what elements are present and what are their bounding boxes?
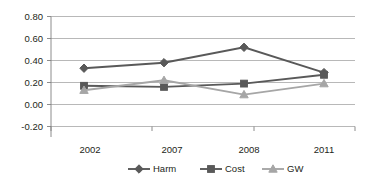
data-point-cost-2007	[161, 84, 168, 91]
legend-label-harm: Harm	[153, 163, 176, 174]
legend-item-cost[interactable]: Cost	[200, 163, 245, 174]
y-axis-labels: 0.80 0.60 0.40 0.20 0.00 -0.20	[21, 11, 43, 132]
y-axis-label-0: 0.80	[25, 11, 44, 22]
gridlines	[51, 17, 355, 127]
data-point-harm-2002	[80, 64, 88, 72]
y-axis-label-3: 0.20	[25, 77, 44, 88]
legend-label-cost: Cost	[225, 163, 245, 174]
legend-marker-cost	[208, 166, 215, 173]
legend-item-gw[interactable]: GW	[262, 163, 303, 174]
x-axis-label-2008: 2008	[238, 144, 259, 155]
data-point-harm-2007	[160, 59, 168, 67]
legend-marker-harm	[135, 165, 143, 173]
x-axis-label-2007: 2007	[161, 144, 182, 155]
data-point-cost-2011	[321, 71, 328, 78]
x-axis-label-2011: 2011	[314, 144, 334, 155]
y-axis-label-5: -0.20	[21, 121, 43, 132]
line-chart: 0.80 0.60 0.40 0.20 0.00 -0.20 2002 2007…	[0, 0, 368, 188]
x-axis-labels: 2002 2007 2008 2011	[79, 144, 334, 155]
chart-legend: HarmCostGW	[128, 163, 303, 174]
series-line-harm	[84, 47, 324, 72]
data-point-cost-2008	[241, 80, 248, 87]
x-axis-label-2002: 2002	[79, 144, 100, 155]
data-point-harm-2008	[240, 43, 248, 51]
y-axis-label-2: 0.40	[25, 55, 44, 66]
series-layer	[80, 43, 328, 98]
chart-canvas: 0.80 0.60 0.40 0.20 0.00 -0.20 2002 2007…	[0, 0, 368, 188]
x-axis-ticks	[51, 127, 355, 132]
legend-item-harm[interactable]: Harm	[128, 163, 176, 174]
legend-label-gw: GW	[287, 163, 303, 174]
y-axis-ticks	[47, 17, 51, 127]
y-axis-label-4: 0.00	[25, 99, 44, 110]
series-harm	[80, 43, 328, 77]
y-axis-label-1: 0.60	[25, 33, 44, 44]
